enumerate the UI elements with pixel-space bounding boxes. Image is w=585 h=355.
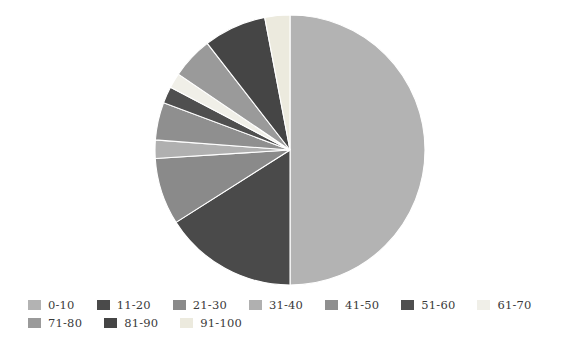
- legend-item-41-50[interactable]: 41-50: [325, 298, 379, 312]
- legend-item-label: 71-80: [48, 316, 82, 330]
- legend-swatch-icon: [401, 300, 414, 310]
- pie-slice-shape[interactable]: [290, 15, 425, 285]
- legend-swatch-icon: [28, 300, 41, 310]
- pie-chart-svg: [0, 0, 585, 292]
- legend-item-label: 21-30: [193, 298, 227, 312]
- legend-item-label: 81-90: [124, 316, 158, 330]
- legend-item-0-10[interactable]: 0-10: [28, 298, 75, 312]
- legend-row: 71-8081-9091-100: [28, 314, 585, 331]
- legend-item-label: 91-100: [200, 316, 242, 330]
- legend-swatch-icon: [325, 300, 338, 310]
- chart-legend: 0-1011-2021-3031-4041-5051-6061-7071-808…: [0, 296, 585, 332]
- legend-item-label: 11-20: [117, 298, 151, 312]
- legend-swatch-icon: [104, 318, 117, 328]
- legend-swatch-icon: [97, 300, 110, 310]
- legend-item-81-90[interactable]: 81-90: [104, 316, 158, 330]
- legend-item-71-80[interactable]: 71-80: [28, 316, 82, 330]
- legend-item-11-20[interactable]: 11-20: [97, 298, 151, 312]
- legend-item-21-30[interactable]: 21-30: [173, 298, 227, 312]
- legend-item-61-70[interactable]: 61-70: [477, 298, 531, 312]
- legend-swatch-icon: [173, 300, 186, 310]
- pie-slice[interactable]: [290, 15, 425, 285]
- legend-item-91-100[interactable]: 91-100: [180, 316, 242, 330]
- legend-swatch-icon: [477, 300, 490, 310]
- legend-swatch-icon: [28, 318, 41, 328]
- legend-row: 0-1011-2021-3031-4041-5051-6061-70: [28, 296, 585, 313]
- legend-item-label: 51-60: [421, 298, 455, 312]
- legend-item-label: 41-50: [345, 298, 379, 312]
- legend-item-51-60[interactable]: 51-60: [401, 298, 455, 312]
- legend-item-label: 31-40: [269, 298, 303, 312]
- legend-item-31-40[interactable]: 31-40: [249, 298, 303, 312]
- legend-item-label: 61-70: [497, 298, 531, 312]
- legend-swatch-icon: [249, 300, 262, 310]
- pie-chart-area: [0, 0, 585, 292]
- legend-item-label: 0-10: [48, 298, 75, 312]
- legend-swatch-icon: [180, 318, 193, 328]
